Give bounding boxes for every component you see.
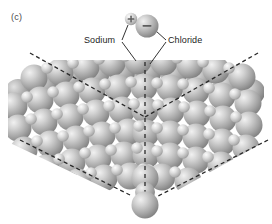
leader-sodium-to-lattice-ion bbox=[122, 42, 136, 61]
panel-label: (c) bbox=[11, 12, 22, 22]
lattice-body bbox=[1, 48, 266, 203]
crystal-illustration bbox=[0, 0, 272, 224]
leader-sodium-to-free-ion bbox=[122, 25, 128, 40]
free-sodium-ion bbox=[125, 13, 137, 25]
charge-minus-sign bbox=[143, 25, 152, 27]
label-chloride: Chloride bbox=[168, 35, 202, 45]
lattice-right-face bbox=[143, 75, 262, 195]
free-chloride-ion bbox=[136, 15, 159, 38]
figure-panel-c: (c) Sodium Chloride bbox=[0, 0, 272, 224]
label-sodium: Sodium bbox=[84, 35, 115, 45]
detached-bottom-ion bbox=[132, 192, 159, 219]
leader-chloride-to-free-ion bbox=[156, 31, 166, 40]
